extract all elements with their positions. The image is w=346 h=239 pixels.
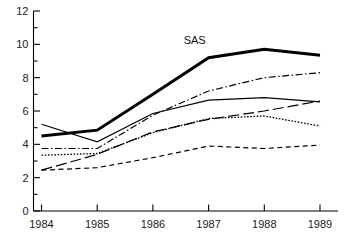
chart-annotations: SAS xyxy=(184,34,206,46)
line-chart: 024681012 198419851986198719881989 SAS xyxy=(0,0,346,239)
y-axis-tick-label: 6 xyxy=(22,105,28,117)
y-axis-tick-label: 0 xyxy=(22,205,28,217)
y-axis-tick-label: 4 xyxy=(22,138,28,150)
x-axis-tick-label: 1988 xyxy=(252,218,276,230)
y-axis-tick-label: 10 xyxy=(16,38,28,50)
series-line-series-3 xyxy=(42,98,321,142)
x-axis-tick-label: 1986 xyxy=(141,218,165,230)
series-line-sas xyxy=(42,49,321,136)
series-line-series-4 xyxy=(42,101,321,170)
x-axis-tick-label: 1989 xyxy=(308,218,332,230)
y-axis: 024681012 xyxy=(16,5,40,217)
y-axis-tick-label: 12 xyxy=(16,5,28,17)
series-lines xyxy=(42,49,321,170)
x-axis-tick-label: 1985 xyxy=(85,218,109,230)
series-label-sas: SAS xyxy=(184,34,206,46)
x-axis-tick-label: 1987 xyxy=(196,218,220,230)
y-axis-tick-label: 8 xyxy=(22,72,28,84)
series-line-series-5 xyxy=(42,116,321,155)
x-axis: 198419851986198719881989 xyxy=(29,205,338,231)
y-axis-tick-label: 2 xyxy=(22,172,28,184)
chart-plot-area: 024681012 198419851986198719881989 SAS xyxy=(0,0,346,239)
x-axis-tick-label: 1984 xyxy=(29,218,53,230)
